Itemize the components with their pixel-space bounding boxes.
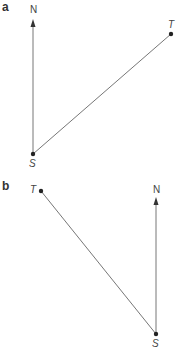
panel-b-north-label: N [153, 184, 160, 195]
panel-a-t-label: T [168, 19, 175, 30]
panel-a-point-s [31, 152, 35, 156]
panel-b: b N S T [2, 179, 160, 349]
panel-b-s-label: S [152, 338, 159, 349]
panel-a-point-t [169, 32, 173, 36]
panel-a-north-label: N [30, 4, 37, 15]
bearing-diagrams: a N S T b N S T [0, 0, 186, 354]
panel-b-bearing-line [41, 191, 156, 334]
panel-b-t-label: T [30, 184, 37, 195]
panel-a-label: a [2, 0, 9, 14]
panel-b-point-t [39, 189, 43, 193]
panel-b-north-arrow-icon [154, 197, 159, 205]
panel-b-point-s [154, 332, 158, 336]
panel-b-label: b [2, 179, 9, 193]
panel-a-s-label: S [29, 158, 36, 169]
panel-a-bearing-line [33, 34, 171, 154]
panel-a-north-arrow-icon [31, 19, 36, 27]
panel-a: a N S T [2, 0, 175, 169]
